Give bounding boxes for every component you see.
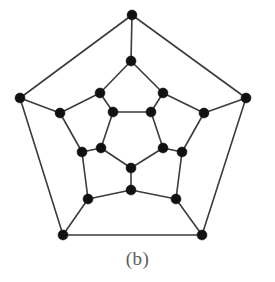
graph-vertex	[96, 143, 106, 153]
graph-vertex	[241, 93, 251, 103]
graph-diagram	[0, 0, 275, 282]
graph-vertex	[126, 185, 136, 195]
graph-vertex	[126, 56, 136, 66]
graph-vertex	[55, 108, 65, 118]
graph-vertex	[146, 107, 156, 117]
graph-vertex	[108, 107, 118, 117]
graph-vertex	[58, 230, 68, 240]
graph-vertex	[171, 194, 181, 204]
graph-vertex	[199, 108, 209, 118]
graph-vertex	[83, 194, 93, 204]
figure-caption: (b)	[0, 249, 275, 268]
graph-vertex	[77, 147, 87, 157]
figure-container: (b)	[0, 0, 275, 282]
graph-edge	[131, 15, 132, 61]
graph-vertex	[158, 143, 168, 153]
graph-vertex	[126, 163, 136, 173]
graph-vertex	[127, 10, 137, 20]
graph-vertex	[197, 230, 207, 240]
diagram-background	[0, 0, 275, 282]
graph-vertex	[15, 93, 25, 103]
graph-vertex	[177, 147, 187, 157]
graph-vertex	[158, 88, 168, 98]
graph-vertex	[95, 88, 105, 98]
